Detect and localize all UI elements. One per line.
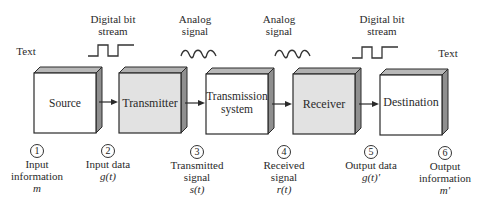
analog-signal-label-2: Analog signal — [256, 13, 302, 37]
block-label-line: Transmission — [206, 90, 268, 103]
point-label-line: Input — [0, 158, 77, 170]
point-label-6: Output information m' — [405, 160, 480, 196]
block-label: Receiver — [293, 98, 355, 111]
label-line: signal — [256, 25, 302, 37]
digital-bit-stream-label-2: Digital bit stream — [347, 13, 417, 37]
point-label-3: Transmitted signal s(t) — [157, 159, 237, 195]
point-label-2: Input data g(t) — [68, 158, 148, 182]
point-symbol: m — [0, 182, 77, 194]
arrow-icon — [185, 99, 206, 107]
point-label-5: Output data g(t)' — [331, 159, 411, 183]
analog-wave-icon — [274, 47, 312, 61]
block-label: Transmitter — [119, 97, 181, 110]
point-label-4: Received signal r(t) — [244, 159, 324, 195]
block-label: Destination — [380, 96, 442, 109]
block-label-line: Transmitter — [119, 97, 181, 110]
point-number-2: 2 — [101, 144, 115, 158]
point-symbol: g(t)' — [331, 171, 411, 183]
point-label-line: Transmitted — [157, 159, 237, 171]
point-number-4: 4 — [277, 145, 291, 159]
label-line: Digital bit — [78, 13, 148, 25]
block-label: Source — [34, 97, 96, 110]
block-label-line: Destination — [380, 96, 442, 109]
point-symbol: s(t) — [157, 183, 237, 195]
digital-pulse-icon — [352, 43, 400, 63]
digital-bit-stream-label-1: Digital bit stream — [78, 13, 148, 37]
label-line: stream — [78, 25, 148, 37]
text-label-left: Text — [6, 45, 46, 57]
point-label-line: Output — [405, 160, 480, 172]
destination-block: Destination — [380, 69, 452, 137]
point-number-3: 3 — [190, 145, 204, 159]
arrow-icon — [272, 100, 293, 108]
label-line: Analog — [172, 13, 218, 25]
label-line: Digital bit — [347, 13, 417, 25]
block-label: Transmission system — [206, 90, 268, 116]
label-line: signal — [172, 25, 218, 37]
analog-wave-icon — [180, 47, 218, 61]
block-label-line: Source — [34, 97, 96, 110]
analog-signal-label-1: Analog signal — [172, 13, 218, 37]
label-line: stream — [347, 25, 417, 37]
point-label-1: Input information m — [0, 158, 77, 194]
block-label-line: Receiver — [293, 98, 355, 111]
point-symbol: r(t) — [244, 183, 324, 195]
point-label-line: Output data — [331, 159, 411, 171]
text-label-right: Text — [428, 47, 468, 59]
point-label-line: information — [0, 170, 77, 182]
point-symbol: m' — [405, 184, 480, 196]
digital-pulse-icon — [88, 41, 136, 61]
point-label-line: Input data — [68, 158, 148, 170]
point-number-6: 6 — [438, 146, 452, 160]
point-label-line: information — [405, 172, 480, 184]
arrow-icon — [99, 98, 119, 106]
arrow-icon — [359, 100, 380, 108]
block-label-line: system — [206, 103, 268, 116]
point-number-5: 5 — [364, 145, 378, 159]
point-symbol: g(t) — [68, 170, 148, 182]
point-label-line: signal — [157, 171, 237, 183]
source-block: Source — [34, 67, 106, 135]
point-number-1: 1 — [30, 144, 44, 158]
label-line: Analog — [256, 13, 302, 25]
receiver-block: Receiver — [293, 68, 365, 136]
point-label-line: Received — [244, 159, 324, 171]
transmitter-block: Transmitter — [119, 67, 191, 135]
transmission-system-block: Transmission system — [206, 68, 278, 136]
point-label-line: signal — [244, 171, 324, 183]
